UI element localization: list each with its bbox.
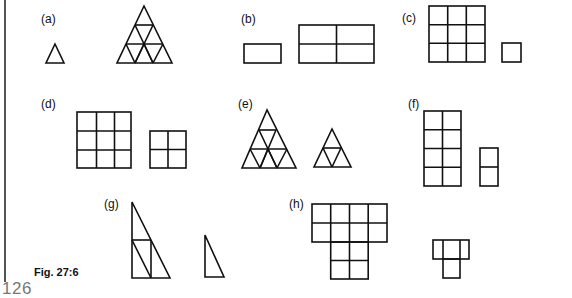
panel-e-small-triangle (314, 129, 351, 167)
panel-g-large-triangle (132, 202, 170, 278)
panel-e-large-triangle (242, 110, 296, 168)
panel-b-small-rectangle (244, 44, 281, 63)
panel-d-small-grid (150, 131, 186, 168)
figure-caption: Fig. 27:6 (34, 266, 79, 278)
figure-drawing (0, 0, 572, 298)
page-number: 126 (2, 279, 32, 298)
panel-a-large-triangle (117, 6, 172, 63)
panel-c-large-grid (429, 6, 485, 62)
panel-d-large-grid (77, 112, 131, 168)
panel-h-large-t-shape (312, 204, 387, 279)
panel-f-large-grid (424, 111, 461, 186)
panel-c-small-square (502, 43, 521, 62)
panel-a-small-triangle (46, 44, 64, 63)
panel-f-small-grid (480, 148, 498, 186)
panel-b-large-rectangle (299, 25, 374, 63)
panel-g-small-triangle (205, 235, 224, 277)
panel-h-small-t-shape (433, 240, 469, 278)
